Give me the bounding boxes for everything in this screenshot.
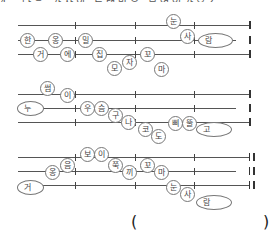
syllable-circle: 한 (20, 33, 35, 48)
syllable-circle: 눈 (166, 180, 181, 195)
end-barline (249, 104, 251, 112)
syllable-circle: 옹 (45, 165, 60, 180)
syllable-circle: 밀 (78, 33, 93, 48)
syllable-circle: 우 (80, 101, 95, 116)
staff-line (18, 157, 250, 158)
staff-line (18, 54, 250, 55)
end-barline (249, 167, 255, 175)
syllable-circle: 도 (151, 129, 166, 144)
syllable-circle: 사 (180, 29, 195, 44)
syllable-circle: 이 (60, 88, 75, 103)
measure-tick (75, 168, 76, 175)
measure-tick (194, 154, 195, 161)
syllable-circle: 삐 (168, 116, 183, 131)
syllable-circle: 거 (33, 47, 48, 62)
measure-tick (75, 22, 76, 29)
measure-tick (135, 37, 136, 44)
measure-tick (194, 51, 195, 58)
staff-line (18, 185, 250, 186)
syllable-oval: 거 (17, 180, 44, 195)
measure-tick (75, 105, 76, 112)
syllable-circle: 사 (180, 187, 195, 202)
measure-tick (135, 154, 136, 161)
measure-tick (135, 105, 136, 112)
syllable-circle: 나 (121, 115, 136, 130)
measure-tick (194, 168, 195, 175)
syllable-circle: 자 (122, 55, 137, 70)
end-barline (249, 181, 255, 189)
syllable-circle: 눈 (166, 14, 181, 29)
syllable-circle: 뚤 (182, 116, 197, 131)
measure-tick (194, 105, 195, 112)
measure-tick (75, 154, 76, 161)
measure-tick (135, 22, 136, 29)
measure-tick (75, 51, 76, 58)
measure-tick (135, 91, 136, 98)
syllable-circle: 음 (60, 158, 75, 173)
measure-tick (135, 182, 136, 189)
syllable-circle: 쭉 (108, 158, 123, 173)
syllable-circle: 마 (154, 62, 169, 77)
syllable-oval: 고 (196, 122, 232, 137)
measure-tick (194, 91, 195, 98)
answer-close-paren: ) (263, 212, 269, 231)
syllable-circle: 꼬 (140, 47, 155, 62)
measure-tick (75, 91, 76, 98)
measure-tick (194, 22, 195, 29)
syllable-circle: 마 (154, 165, 169, 180)
syllable-circle: 이 (94, 147, 109, 162)
staff-line (18, 108, 236, 109)
measure-tick (75, 182, 76, 189)
syllable-oval: 람 (196, 195, 232, 210)
syllable-circle: 슴 (94, 101, 109, 116)
syllable-circle: 옹 (48, 33, 63, 48)
end-barline (249, 118, 251, 126)
measure-tick (194, 182, 195, 189)
title-cut-off: 4. 다음 가사의 노랫말은 무엇인가요? (0, 0, 273, 2)
measure-tick (75, 37, 76, 44)
end-barline (249, 21, 251, 29)
staff-line (18, 25, 250, 26)
syllable-circle: 집 (92, 47, 107, 62)
syllable-circle: 보 (80, 147, 95, 162)
staff-line (18, 94, 250, 95)
syllable-oval: 누 (17, 101, 44, 116)
syllable-circle: 모 (107, 61, 122, 76)
end-barline (249, 90, 251, 98)
syllable-circle: 꼬 (140, 158, 155, 173)
answer-blank[interactable] (140, 212, 260, 232)
measure-tick (75, 119, 76, 126)
answer-open-paren: ( (131, 212, 137, 231)
end-barline (249, 153, 255, 161)
syllable-circle: 썸 (40, 81, 55, 96)
syllable-oval: 람 (198, 33, 233, 48)
syllable-circle: 끼 (122, 165, 137, 180)
syllable-circle: 에 (60, 47, 75, 62)
end-barline (249, 50, 251, 58)
end-barline (249, 36, 251, 44)
